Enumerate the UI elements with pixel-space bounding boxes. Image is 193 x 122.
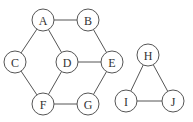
node-label: G [84, 98, 93, 112]
node-label: I [124, 95, 128, 109]
node-label: E [108, 56, 115, 70]
node-i: I [115, 90, 137, 112]
node-label: H [144, 49, 153, 63]
node-g: G [77, 93, 99, 115]
node-b: B [77, 9, 99, 31]
graph-diagram: ABCDEFGHIJ [0, 0, 193, 122]
node-f: F [32, 93, 54, 115]
node-label: B [84, 14, 92, 28]
node-h: H [137, 44, 159, 66]
node-label: F [40, 98, 47, 112]
node-label: D [63, 56, 72, 70]
node-label: A [39, 14, 48, 28]
node-a: A [32, 9, 54, 31]
node-e: E [101, 51, 123, 73]
node-d: D [56, 51, 78, 73]
node-j: J [162, 90, 184, 112]
node-label: J [171, 95, 176, 109]
node-c: C [4, 51, 26, 73]
node-label: C [11, 56, 19, 70]
